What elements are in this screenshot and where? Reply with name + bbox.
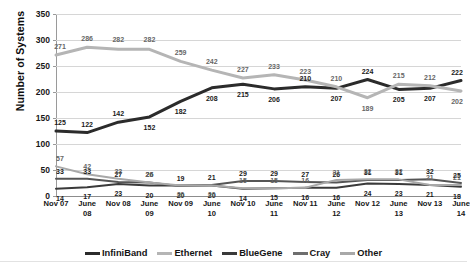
data-label: 182: [175, 108, 187, 115]
data-label: 202: [451, 97, 463, 104]
data-label: 205: [393, 96, 405, 103]
data-label: 16: [301, 193, 309, 200]
data-label: 17: [83, 193, 91, 200]
legend-label: Ethernet: [174, 249, 212, 258]
data-label: 125: [54, 119, 66, 126]
series-line-infiniband: [56, 80, 461, 133]
legend-swatch-icon: [293, 252, 308, 255]
data-label: 15: [270, 177, 278, 184]
legend-item-ethernet[interactable]: Ethernet: [157, 249, 212, 258]
data-label: 227: [237, 65, 249, 72]
data-label: 18: [453, 192, 461, 199]
data-label: 259: [175, 49, 187, 56]
legend-label: Cray: [310, 249, 331, 258]
data-label: 208: [206, 94, 218, 101]
data-label: 15: [270, 194, 278, 201]
data-label: 207: [331, 95, 343, 102]
legend-label: BlueGene: [239, 249, 282, 258]
legend-item-other[interactable]: Other: [340, 249, 382, 258]
data-label: 14: [239, 194, 247, 201]
data-label: 15: [239, 177, 247, 184]
data-label: 282: [112, 36, 124, 43]
data-label: 14: [56, 194, 64, 201]
legend-swatch-icon: [85, 252, 100, 255]
data-label: 42: [83, 163, 91, 170]
legend-item-bluegene[interactable]: BlueGene: [222, 249, 282, 258]
chart-legend: InfiniBandEthernetBlueGeneCrayOther: [0, 249, 467, 258]
data-label: 20: [146, 191, 154, 198]
data-label: 19: [177, 175, 185, 182]
data-label: 23: [114, 190, 122, 197]
data-label: 286: [81, 35, 93, 42]
data-label: 33: [114, 167, 122, 174]
legend-label: Other: [357, 249, 382, 258]
data-label: 207: [424, 95, 436, 102]
data-label: 215: [237, 91, 249, 98]
data-label: 210: [331, 74, 343, 81]
data-label: 210: [299, 74, 311, 81]
data-label: 224: [362, 67, 374, 74]
data-label: 57: [56, 155, 64, 162]
data-label: 29: [239, 169, 247, 176]
data-label: 32: [364, 168, 372, 175]
data-label: 32: [395, 168, 403, 175]
legend-swatch-icon: [340, 252, 355, 255]
data-label: 215: [393, 72, 405, 79]
data-label: 23: [395, 190, 403, 197]
data-label: 242: [206, 58, 218, 65]
data-label: 20: [208, 190, 216, 197]
legend-swatch-icon: [222, 252, 237, 255]
data-label: 122: [81, 120, 93, 127]
legend-label: InfiniBand: [102, 249, 147, 258]
data-label: 206: [268, 95, 280, 102]
data-label: 33: [56, 167, 64, 174]
data-label: 152: [144, 123, 156, 130]
data-label: 189: [362, 104, 374, 111]
data-label: 16: [332, 193, 340, 200]
data-label: 21: [426, 174, 434, 181]
data-label: 29: [270, 169, 278, 176]
data-label: 20: [177, 190, 185, 197]
data-label: 31: [332, 168, 340, 175]
data-label: 16: [301, 176, 309, 183]
data-label: 233: [268, 62, 280, 69]
data-label: 24: [364, 189, 372, 196]
data-label: 142: [112, 110, 124, 117]
legend-item-cray[interactable]: Cray: [293, 249, 331, 258]
data-label: 26: [146, 171, 154, 178]
data-label: 271: [54, 43, 66, 50]
legend-swatch-icon: [157, 252, 172, 255]
data-label: 222: [451, 68, 463, 75]
data-label: 21: [453, 174, 461, 181]
data-label: 223: [299, 68, 311, 75]
data-label: 21: [426, 191, 434, 198]
data-label: 212: [424, 73, 436, 80]
data-label: 21: [208, 174, 216, 181]
legend-item-infiniband[interactable]: InfiniBand: [85, 249, 147, 258]
data-label: 282: [144, 36, 156, 43]
